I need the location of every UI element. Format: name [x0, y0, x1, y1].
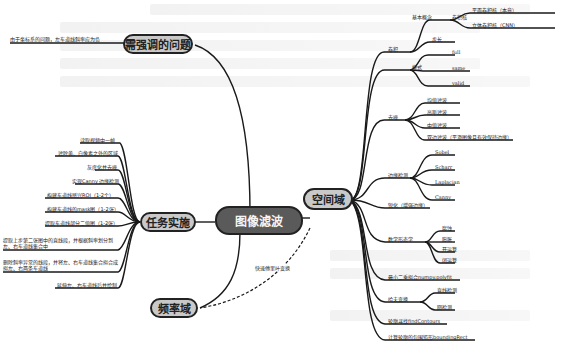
spatial-morph: 数学形态学 — [388, 236, 413, 242]
spatial-hough-child: 圆检测 — [437, 304, 452, 310]
spatial-hough: 哈夫变换 — [388, 296, 408, 302]
spatial-conv-kernel: 卷积核 — [452, 14, 467, 20]
spatial-bbox: 计算轮廓的包围矩形boundingRect — [388, 334, 468, 340]
spatial-sharpen: 锐化（增强边缘） — [388, 202, 428, 208]
task-item: 滤除黄、白像素之外的区域 — [58, 150, 118, 156]
spatial-hough-child: 直线检测 — [437, 287, 457, 293]
task-item: 灰度化并去噪 — [87, 164, 117, 170]
task-item: 延伸左、右车道线后并绘制 — [57, 282, 117, 288]
spatial-conv-mode-child: valid — [452, 80, 464, 86]
spatial-conv: 卷积 — [388, 46, 398, 52]
spatial-edge-child: Scharr — [435, 164, 452, 170]
spatial-contour: 轮廓寻找findContours — [388, 318, 440, 324]
spatial-morph-child: 闭运算 — [442, 257, 457, 263]
task-item: 读取视频中一帧 — [80, 137, 115, 143]
spatial-denoise-child: 中值滤波 — [427, 122, 447, 128]
spatial-morph-child: 膨胀 — [442, 236, 452, 242]
spatial-denoise: 去噪 — [388, 114, 398, 120]
task-item: 实现Canny 边缘检测 — [72, 178, 119, 184]
spatial-edge-child: Laplacian — [435, 179, 460, 185]
spatial-conv-kernel-child: 平面卷积核（本章） — [472, 7, 517, 13]
node-spatial-domain[interactable]: 空间域 — [303, 188, 353, 210]
task-item: 提取上步第二张图中的直线段，并根据斜率划分到左、右车道线集合中 — [3, 237, 118, 249]
spatial-denoise-child: 均值滤波 — [427, 97, 447, 103]
issue-item: 由于坐标系的问题，左车道线斜率应为负 — [10, 36, 100, 42]
spatial-conv-mode-child: same — [452, 65, 465, 71]
spatial-conv-mode: 模式 — [412, 64, 422, 70]
task-item: 删除斜率异常的线段，并将左、右车道线集合拟合成拟左、右两条车道线 — [3, 259, 118, 271]
spatial-edge-child: Sobel — [435, 149, 449, 155]
spatial-morph-child: 腐蚀 — [442, 225, 452, 231]
node-key-issues[interactable]: 需强调的问题 — [123, 34, 193, 54]
edge-label-fft: 快速傅里叶变换 — [254, 264, 291, 271]
mindmap-connectors — [0, 0, 563, 348]
spatial-conv-kernel-child: 立体卷积核（CNN） — [472, 22, 518, 28]
spatial-conv-mode-child: full — [452, 49, 460, 55]
spatial-edge: 边缘检测 — [388, 172, 408, 178]
task-item: 构建车道线感兴ROI（1-2个） — [47, 192, 114, 198]
node-frequency-domain[interactable]: 频率域 — [150, 298, 198, 318]
spatial-denoise-child: 高斯滤波 — [427, 109, 447, 115]
spatial-edge-child: Canny — [435, 194, 451, 200]
task-item: 提取车道线部分二值图（1-2张） — [45, 220, 118, 226]
spatial-conv-basic: 基本概念 — [412, 14, 432, 20]
spatial-denoise-child: 双边滤波（平滑图像且有效保持边缘） — [427, 134, 512, 140]
spatial-morph-child: 开运算 — [442, 246, 457, 252]
node-task-implementation[interactable]: 任务实施 — [140, 212, 196, 232]
center-node-image-filtering[interactable]: 图像滤波 — [215, 206, 303, 235]
task-item: 构建车道线的mask图（1-2张） — [47, 206, 119, 212]
spatial-conv-stride: 步长 — [432, 36, 442, 42]
spatial-lsq: 最小二乘拟合numpy.polyfit — [388, 274, 452, 280]
